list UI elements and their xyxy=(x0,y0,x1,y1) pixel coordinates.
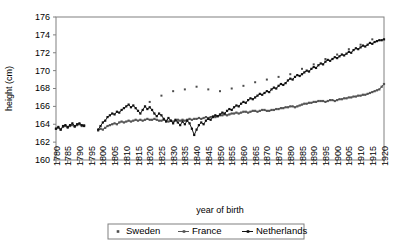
data-point xyxy=(191,128,193,130)
data-point xyxy=(238,112,240,114)
y-tick-label: 162 xyxy=(35,137,50,147)
data-point xyxy=(235,112,237,114)
data-point xyxy=(282,107,284,109)
x-axis-title: year of birth xyxy=(196,205,244,215)
data-point xyxy=(334,100,336,102)
data-point xyxy=(135,119,137,121)
x-tick-label: 1885 xyxy=(298,146,308,166)
data-point xyxy=(273,109,275,111)
y-tick-label: 166 xyxy=(35,101,50,111)
data-point xyxy=(146,118,148,120)
data-point xyxy=(252,98,254,100)
data-point xyxy=(160,114,162,116)
data-point xyxy=(226,114,228,116)
data-point xyxy=(289,73,291,75)
data-point xyxy=(374,41,376,43)
data-point xyxy=(331,99,333,101)
data-point xyxy=(62,125,64,127)
data-point xyxy=(205,120,207,122)
data-point xyxy=(336,54,338,56)
data-point xyxy=(357,48,359,50)
data-point xyxy=(371,38,373,40)
data-point xyxy=(193,118,195,120)
data-point xyxy=(315,67,317,69)
x-tick-label: 1835 xyxy=(180,146,190,166)
x-tick-label: 1800 xyxy=(98,146,108,166)
data-point xyxy=(219,113,221,115)
data-point xyxy=(60,129,62,131)
data-point xyxy=(299,75,301,77)
data-point xyxy=(299,104,301,106)
data-point xyxy=(177,121,179,123)
data-point xyxy=(121,109,123,111)
data-point xyxy=(203,123,205,125)
legend-label: France xyxy=(192,225,222,236)
x-tick-label: 1915 xyxy=(368,146,378,166)
data-point xyxy=(254,110,256,112)
data-point xyxy=(142,120,144,122)
x-tick-label: 1780 xyxy=(52,146,62,166)
data-point xyxy=(359,46,361,48)
data-point xyxy=(106,116,108,118)
data-point xyxy=(219,90,221,92)
data-point xyxy=(310,68,312,70)
x-tick-label: 1825 xyxy=(157,146,167,166)
data-point xyxy=(376,40,378,42)
data-point xyxy=(263,109,265,111)
data-point xyxy=(221,112,223,114)
data-point xyxy=(350,96,352,98)
data-point xyxy=(111,123,113,125)
data-point xyxy=(146,108,148,110)
data-point xyxy=(196,86,198,88)
data-point xyxy=(254,96,256,98)
data-point xyxy=(128,103,130,105)
data-point xyxy=(132,104,134,106)
data-point xyxy=(109,124,111,126)
data-point xyxy=(224,112,226,114)
data-point xyxy=(336,57,338,59)
plot-area xyxy=(56,17,384,160)
data-point xyxy=(242,111,244,113)
y-tick-label: 168 xyxy=(35,83,50,93)
data-point xyxy=(153,118,155,120)
data-point xyxy=(160,120,162,122)
data-point xyxy=(184,123,186,125)
data-point xyxy=(99,125,101,127)
data-point xyxy=(177,119,179,121)
x-tick-label: 1870 xyxy=(262,146,272,166)
x-tick-label: 1895 xyxy=(321,146,331,166)
data-point xyxy=(184,120,186,122)
data-point xyxy=(285,106,287,108)
data-point xyxy=(292,105,294,107)
data-point xyxy=(214,114,216,116)
data-point xyxy=(135,107,137,109)
data-point xyxy=(270,109,272,111)
data-point xyxy=(118,121,120,123)
data-point xyxy=(324,58,326,60)
data-point xyxy=(273,87,275,89)
data-point xyxy=(275,87,277,89)
data-point xyxy=(109,114,111,116)
data-point xyxy=(231,112,233,114)
x-axis: 1780178517901795180018051810181518201825… xyxy=(52,146,390,166)
legend-marker xyxy=(183,230,186,233)
data-point xyxy=(306,103,308,105)
data-point xyxy=(378,88,380,90)
data-point xyxy=(104,120,106,122)
data-point xyxy=(165,120,167,122)
data-point xyxy=(205,116,207,118)
data-point xyxy=(313,63,315,65)
data-point xyxy=(125,105,127,107)
data-point xyxy=(151,119,153,121)
y-tick-label: 174 xyxy=(35,30,50,40)
data-point xyxy=(217,115,219,117)
data-point xyxy=(296,105,298,107)
data-point xyxy=(320,62,322,64)
data-point xyxy=(252,110,254,112)
data-point xyxy=(137,120,139,122)
data-point xyxy=(381,86,383,88)
data-point xyxy=(331,58,333,60)
x-tick-label: 1920 xyxy=(380,146,390,166)
data-point xyxy=(181,120,183,122)
data-point xyxy=(301,73,303,75)
